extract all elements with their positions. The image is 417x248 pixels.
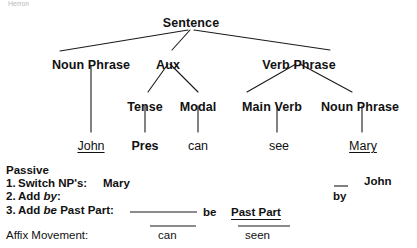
tree-leaf-pres: Pres bbox=[131, 139, 158, 153]
passive-step-3-suffix: Past Part: bbox=[57, 204, 114, 216]
passive-step-1: 1.Switch NP's: bbox=[6, 177, 114, 190]
tree-node-verb-phrase: Verb Phrase bbox=[262, 58, 335, 72]
passive-step-2-text: Add bbox=[18, 190, 40, 202]
passive-step-2-italic: by bbox=[44, 190, 57, 202]
passive-step-3-number: 3. bbox=[6, 204, 18, 217]
worksheet-page: Herron Sentence Noun Phrase bbox=[0, 0, 417, 248]
tree-node-noun-phrase-subject: Noun Phrase bbox=[52, 58, 130, 72]
passive-step-1-number: 1. bbox=[6, 177, 18, 190]
passive-step-1-value: Mary bbox=[103, 177, 130, 190]
passive-step-3-be: be bbox=[203, 206, 216, 219]
passive-step-3: 3.Add be Past Part: bbox=[6, 204, 114, 217]
tree-node-noun-phrase-object: Noun Phrase bbox=[321, 100, 399, 114]
tree-leaf-john: John bbox=[77, 139, 104, 153]
passive-john-value: John bbox=[364, 175, 391, 188]
passive-by-label: by bbox=[333, 190, 346, 203]
tree-leaf-mary: Mary bbox=[349, 139, 377, 153]
passive-step-3-text: Add bbox=[18, 204, 40, 216]
tree-node-main-verb: Main Verb bbox=[242, 100, 302, 114]
tree-leaf-see: see bbox=[269, 139, 289, 153]
passive-step-1-text: Switch NP's: bbox=[18, 177, 87, 189]
passive-heading: Passive bbox=[6, 164, 114, 177]
tree-node-tense: Tense bbox=[127, 100, 163, 114]
top-faint-text-left: Herron bbox=[8, 0, 29, 7]
passive-step-3-italic: be bbox=[44, 204, 57, 216]
affix-movement-value-can: can bbox=[158, 229, 177, 242]
passive-step-2-suffix: : bbox=[57, 190, 61, 202]
affix-movement-value-seen: seen bbox=[245, 229, 270, 242]
passive-step-2: 2.Add by: bbox=[6, 190, 114, 203]
tree-leaf-can: can bbox=[188, 139, 208, 153]
tree-node-sentence: Sentence bbox=[163, 16, 219, 30]
passive-step-3-past-part: Past Part bbox=[231, 206, 281, 219]
affix-movement-label: Affix Movement: bbox=[6, 229, 88, 242]
tree-node-aux: Aux bbox=[156, 58, 180, 72]
tree-node-modal: Modal bbox=[180, 100, 217, 114]
passive-step-2-number: 2. bbox=[6, 190, 18, 203]
passive-rule-list: Passive 1.Switch NP's: 2.Add by: 3.Add b… bbox=[6, 164, 114, 217]
